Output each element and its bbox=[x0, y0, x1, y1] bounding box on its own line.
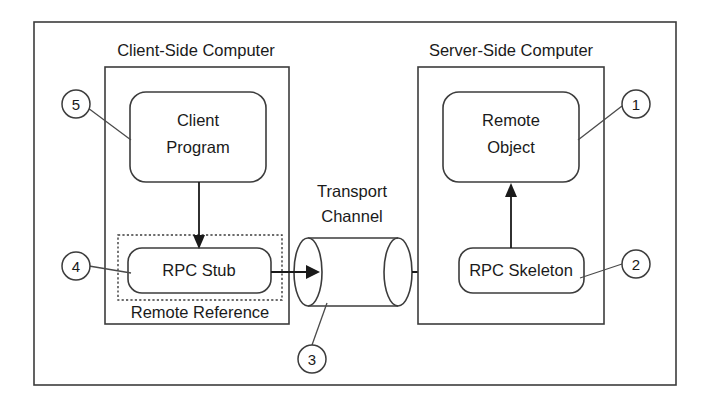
rpc-architecture-diagram: Client-Side Computer Client Program Remo… bbox=[0, 0, 706, 410]
transport-channel-label-line2: Channel bbox=[321, 207, 382, 225]
server-side-computer-title: Server-Side Computer bbox=[429, 41, 594, 59]
rpc-skeleton-label: RPC Skeleton bbox=[469, 261, 573, 279]
remote-object-label-line1: Remote bbox=[482, 111, 540, 129]
client-program-node bbox=[130, 92, 266, 182]
callout-4-number: 4 bbox=[72, 258, 80, 275]
remote-object-label-line2: Object bbox=[487, 138, 535, 156]
remote-reference-label: Remote Reference bbox=[131, 303, 270, 321]
transport-channel-label-line1: Transport bbox=[317, 182, 387, 200]
client-program-label-line1: Client bbox=[177, 111, 220, 129]
callout-2-number: 2 bbox=[632, 256, 640, 273]
remote-object-node bbox=[443, 92, 579, 182]
client-program-label-line2: Program bbox=[166, 138, 229, 156]
client-side-computer-title: Client-Side Computer bbox=[117, 41, 275, 59]
callout-5-number: 5 bbox=[72, 96, 80, 113]
diagram-canvas: Client-Side Computer Client Program Remo… bbox=[0, 0, 706, 410]
rpc-stub-label: RPC Stub bbox=[162, 261, 235, 279]
callout-1-number: 1 bbox=[632, 96, 640, 113]
callout-3-number: 3 bbox=[308, 351, 316, 368]
